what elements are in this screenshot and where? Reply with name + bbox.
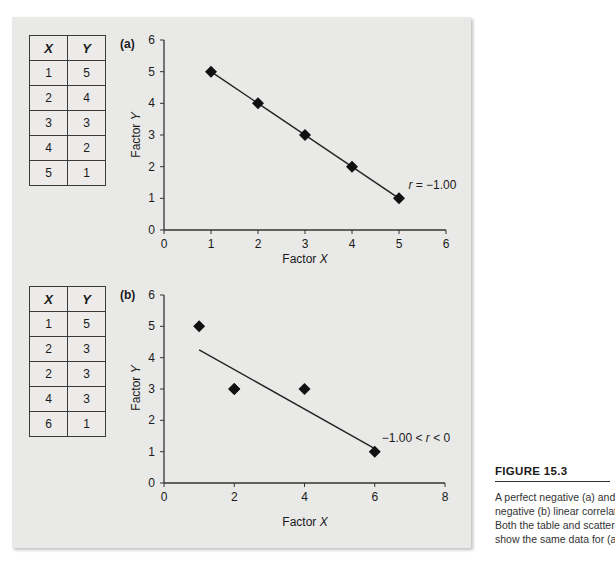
x-tick-label: 8: [442, 490, 449, 504]
x-tick-label: 4: [301, 490, 308, 504]
diamond-marker: [193, 320, 205, 332]
y-tick-label: 1: [148, 445, 155, 459]
x-tick-label: 0: [161, 490, 168, 504]
y-tick-label: 5: [148, 319, 155, 333]
figure-caption: A perfect negative (a) and a negative (b…: [495, 490, 615, 546]
caption-line: show the same data for (a) and: [495, 532, 615, 546]
regression-line: [199, 350, 375, 449]
caption-line: Both the table and scatter plot: [495, 518, 615, 532]
figure-label: FIGURE 15.3: [495, 465, 610, 482]
caption-line: A perfect negative (a) and a: [495, 490, 615, 504]
caption-line: negative (b) linear correlation.: [495, 504, 615, 518]
panel-label-b: (b): [120, 288, 135, 302]
x-tick-label: 2: [231, 490, 238, 504]
x-tick-label: 6: [371, 490, 378, 504]
fit-line-b: [199, 350, 375, 449]
diamond-marker: [228, 383, 240, 395]
diamond-marker: [369, 446, 381, 458]
annotation-b: −1.00 < r < 0: [382, 431, 451, 445]
axes-b: 012345602468: [148, 288, 448, 504]
data-points-b: [193, 320, 381, 457]
x-axis-label-b: Factor X: [282, 515, 328, 529]
y-axis-label-b: Factor Y: [129, 364, 143, 410]
y-tick-label: 0: [148, 476, 155, 490]
y-tick-label: 3: [148, 382, 155, 396]
diamond-marker: [299, 383, 311, 395]
y-tick-label: 6: [148, 288, 155, 302]
y-tick-label: 4: [148, 351, 155, 365]
y-tick-label: 2: [148, 413, 155, 427]
